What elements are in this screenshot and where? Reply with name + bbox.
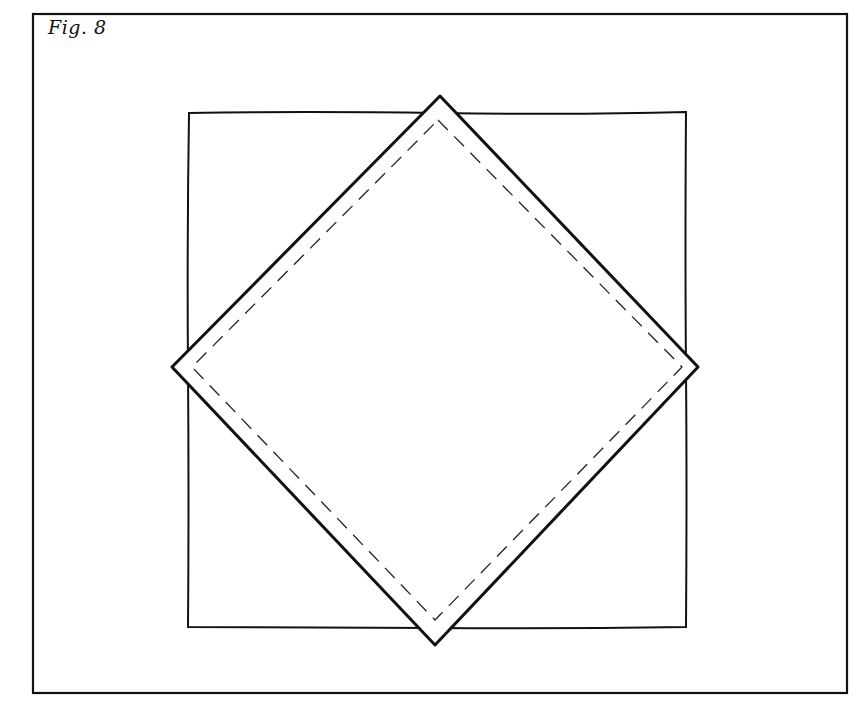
diagram-canvas (0, 0, 867, 704)
